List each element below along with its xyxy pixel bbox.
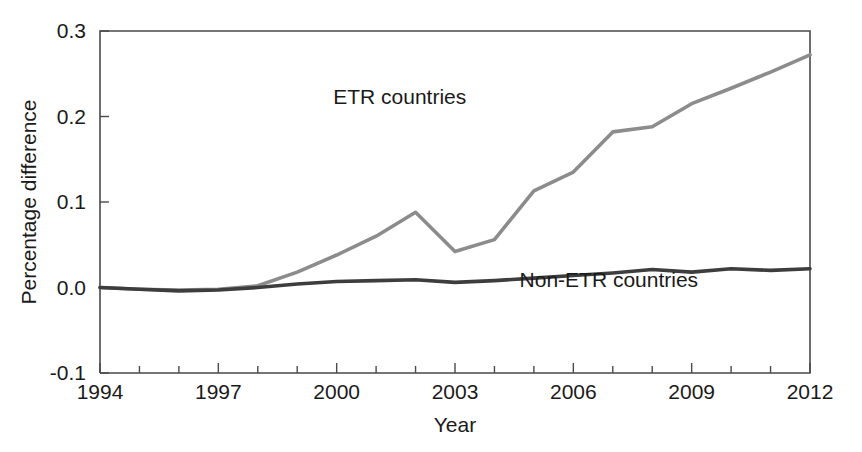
y-axis-title: Percentage difference (17, 99, 40, 304)
series-line-non-etr (100, 269, 810, 291)
plot-frame (100, 31, 810, 373)
y-tick-label: 0.3 (57, 19, 86, 42)
x-tick-label: 1994 (77, 380, 124, 403)
x-tick-label: 2000 (313, 380, 360, 403)
x-axis-tick-labels: 1994199720002003200620092012 (77, 380, 834, 403)
y-tick-label: 0.2 (57, 105, 86, 128)
x-tick-label: 1997 (195, 380, 242, 403)
x-tick-label: 2003 (432, 380, 479, 403)
series-annotations: ETR countriesNon-ETR countries (333, 85, 698, 291)
x-tick-label: 2012 (787, 380, 834, 403)
series-label-non-etr: Non-ETR countries (520, 268, 699, 291)
y-axis-ticks (100, 31, 109, 373)
y-tick-label: 0.1 (57, 190, 86, 213)
y-axis-tick-labels: 0.30.20.10.0-0.1 (50, 19, 86, 384)
x-axis-ticks (100, 363, 810, 373)
x-axis-title: Year (434, 413, 476, 436)
y-tick-label: 0.0 (57, 276, 86, 299)
chart-figure: 0.30.20.10.0-0.1 19941997200020032006200… (0, 0, 862, 452)
x-tick-label: 2009 (668, 380, 715, 403)
line-chart: 0.30.20.10.0-0.1 19941997200020032006200… (0, 0, 862, 452)
x-tick-label: 2006 (550, 380, 597, 403)
series-label-etr: ETR countries (333, 85, 466, 108)
